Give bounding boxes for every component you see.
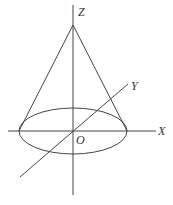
y-axis-label: Y — [131, 79, 139, 93]
x-axis-label: X — [157, 124, 166, 138]
cone-left-edge — [19, 25, 73, 131]
origin-label: O — [76, 133, 85, 147]
cone-right-edge — [73, 25, 127, 131]
z-axis-label: Z — [78, 5, 85, 19]
cone-diagram: Z Y X O — [0, 0, 173, 205]
